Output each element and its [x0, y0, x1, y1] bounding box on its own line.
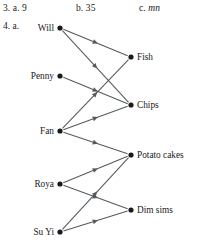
- graph-node-dot-penny: [57, 73, 62, 78]
- arrow-head-icon: [92, 140, 98, 145]
- graph-node-label-dim_sims: Dim sims: [137, 205, 173, 215]
- bipartite-graph-diagram: WillPennyFanRoyaSu YiFishChipsPotato cak…: [0, 0, 198, 244]
- edges-layer: [62, 29, 128, 231]
- graph-node-dot-dim_sims: [128, 207, 133, 212]
- graph-node-dot-will: [57, 25, 62, 30]
- graph-node-label-fan: Fan: [40, 126, 54, 136]
- graph-node-dot-potato_cakes: [128, 152, 133, 157]
- graph-node-dot-suyi: [57, 229, 62, 234]
- node-labels-layer: WillPennyFanRoyaSu YiFishChipsPotato cak…: [31, 23, 184, 237]
- graph-canvas: WillPennyFanRoyaSu YiFishChipsPotato cak…: [0, 0, 198, 244]
- nodes-layer: [57, 25, 133, 234]
- graph-node-label-roya: Roya: [34, 179, 54, 189]
- graph-node-label-fish: Fish: [137, 52, 153, 62]
- graph-edge: [63, 132, 127, 154]
- graph-edge: [63, 211, 127, 231]
- graph-node-label-potato_cakes: Potato cakes: [137, 150, 184, 160]
- graph-node-label-penny: Penny: [31, 71, 55, 81]
- graph-node-dot-fish: [128, 54, 133, 59]
- graph-node-dot-chips: [128, 102, 133, 107]
- arrow-head-icon: [92, 117, 98, 122]
- graph-node-label-suyi: Su Yi: [33, 227, 54, 237]
- graph-node-label-will: Will: [38, 23, 55, 33]
- graph-node-label-chips: Chips: [137, 100, 159, 110]
- page-root: 3. a. 9 b. 35 c. mn 4. a. WillPennyFanRo…: [0, 0, 198, 244]
- graph-node-dot-roya: [57, 181, 62, 186]
- graph-node-dot-fan: [57, 128, 62, 133]
